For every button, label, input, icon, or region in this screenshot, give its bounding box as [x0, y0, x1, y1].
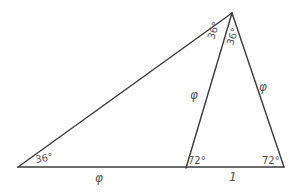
side-label-inner-segment: φ	[190, 88, 198, 102]
triangle-diagram: 36° 36° 36° 72° 72° φ 1 φ φ	[0, 0, 300, 192]
angle-label-apex-left: 36°	[205, 20, 221, 40]
diagram-canvas: 36° 36° 36° 72° 72° φ 1 φ φ	[0, 0, 300, 192]
angle-label-foot: 72°	[188, 155, 206, 166]
angle-label-right-base: 72°	[262, 155, 280, 166]
side-label-base-left: φ	[95, 171, 103, 185]
side-label-right-side: φ	[259, 80, 267, 94]
angle-label-left-base: 36°	[34, 151, 53, 165]
edge-left-apex	[18, 13, 232, 167]
edge-apex-right	[232, 13, 284, 167]
side-label-base-right: 1	[229, 170, 237, 184]
